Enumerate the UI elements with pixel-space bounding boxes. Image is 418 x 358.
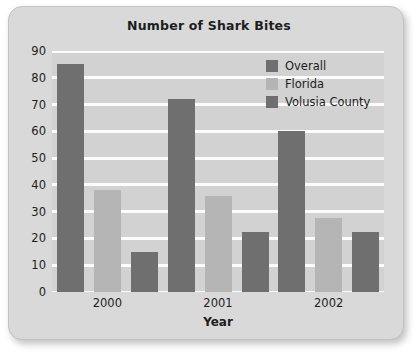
bar — [278, 131, 305, 292]
x-axis: 200020012002 — [52, 296, 384, 314]
legend-item[interactable]: Volusia County — [266, 94, 388, 110]
chart-legend: OverallFloridaVolusia County — [266, 58, 388, 112]
legend-item[interactable]: Overall — [266, 58, 388, 74]
bar-group — [57, 51, 158, 292]
y-axis-tick-label: 40 — [22, 178, 46, 192]
x-axis-tick-label: 2002 — [278, 296, 379, 310]
bar — [94, 190, 121, 292]
bar — [205, 196, 232, 292]
x-axis-tick-label: 2000 — [57, 296, 158, 310]
y-axis-tick-label: 20 — [22, 231, 46, 245]
y-axis-tick-label: 50 — [22, 151, 46, 165]
y-axis-tick-label: 10 — [22, 258, 46, 272]
legend-item[interactable]: Florida — [266, 76, 388, 92]
legend-swatch-icon — [266, 96, 278, 108]
bar-group — [168, 51, 269, 292]
chart-title: Number of Shark Bites — [0, 18, 418, 33]
y-axis-tick-label: 70 — [22, 98, 46, 112]
x-axis-tick-label: 2001 — [168, 296, 269, 310]
bar — [242, 232, 269, 292]
y-axis-tick-label: 80 — [22, 71, 46, 85]
legend-item-label: Volusia County — [285, 95, 370, 109]
y-axis-tick-label: 90 — [22, 44, 46, 58]
bar — [315, 218, 342, 292]
legend-item-label: Overall — [285, 59, 326, 73]
legend-item-label: Florida — [285, 77, 324, 91]
bar — [352, 232, 379, 292]
y-axis: 9080706050403020100 — [18, 51, 46, 292]
legend-swatch-icon — [266, 60, 278, 72]
legend-swatch-icon — [266, 78, 278, 90]
bar — [168, 99, 195, 292]
y-axis-tick-label: 30 — [22, 205, 46, 219]
bar — [57, 64, 84, 292]
x-axis-label: Year — [52, 315, 384, 329]
chart-figure: Number of Shark Bites 908070605040302010… — [0, 0, 418, 358]
y-axis-tick-label: 60 — [22, 124, 46, 138]
bar — [131, 252, 158, 292]
y-axis-tick-label: 0 — [22, 285, 46, 299]
